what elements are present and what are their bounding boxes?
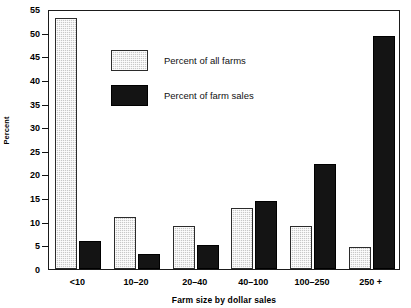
y-axis-tick-label: 5	[14, 242, 40, 251]
y-axis-tick-label: 40	[14, 76, 40, 85]
x-axis-tick-label: 10–20	[123, 277, 148, 287]
bar	[138, 254, 160, 269]
x-axis-tick-label: 100–250	[294, 277, 329, 287]
y-axis-tick-mark	[42, 81, 49, 82]
legend-item: Percent of farm sales	[111, 84, 341, 106]
x-axis-tick-label: 250 +	[359, 277, 382, 287]
y-axis-tick-mark	[42, 223, 49, 224]
bar	[173, 226, 195, 269]
bar	[373, 36, 395, 269]
bar	[114, 217, 136, 269]
y-axis-tick-mark	[42, 57, 49, 58]
y-axis-tick-mark	[42, 128, 49, 129]
y-axis-tick-label: 45	[14, 53, 40, 62]
y-axis-tick-label: 10	[14, 218, 40, 227]
legend: Percent of all farms Percent of farm sal…	[111, 49, 341, 119]
y-axis-tick-labels: 0510152025303540455055	[14, 0, 40, 308]
y-axis-tick-mark	[42, 246, 49, 247]
x-axis-tick-label: 20–40	[182, 277, 207, 287]
y-axis-tick-label: 35	[14, 100, 40, 109]
bar	[349, 247, 371, 269]
bar-chart: Percent 0510152025303540455055 Percent o…	[0, 0, 411, 308]
legend-swatch-farm-sales	[111, 85, 148, 106]
x-axis-tick-labels: <1010–2020–4040–100100–250250 +	[48, 277, 400, 291]
bar	[290, 226, 312, 269]
y-axis-tick-mark	[42, 105, 49, 106]
y-axis-tick-label: 25	[14, 147, 40, 156]
y-axis-tick-label: 50	[14, 29, 40, 38]
y-axis-tick-mark	[42, 175, 49, 176]
bar	[314, 164, 336, 269]
x-axis-tick-label: 40–100	[238, 277, 268, 287]
legend-label-farm-sales: Percent of farm sales	[164, 90, 254, 101]
y-axis-tick-mark	[42, 199, 49, 200]
bar	[79, 241, 101, 269]
y-axis-title: Percent	[2, 101, 11, 161]
y-axis-tick-label: 55	[14, 6, 40, 15]
legend-item: Percent of all farms	[111, 49, 341, 71]
y-axis-tick-mark	[42, 152, 49, 153]
y-axis-tick-label: 20	[14, 171, 40, 180]
x-axis-title: Farm size by dollar sales	[48, 295, 400, 305]
legend-label-all-farms: Percent of all farms	[164, 55, 246, 66]
plot-area: Percent of all farms Percent of farm sal…	[48, 10, 400, 270]
bar	[231, 208, 253, 269]
y-axis-tick-label: 0	[14, 266, 40, 275]
x-axis-tick-label: <10	[70, 277, 85, 287]
y-axis-tick-mark	[42, 34, 49, 35]
bar	[255, 201, 277, 269]
legend-swatch-all-farms	[111, 50, 148, 71]
bar	[55, 18, 77, 269]
y-axis-tick-label: 30	[14, 124, 40, 133]
bar	[197, 245, 219, 269]
y-axis-tick-label: 15	[14, 195, 40, 204]
